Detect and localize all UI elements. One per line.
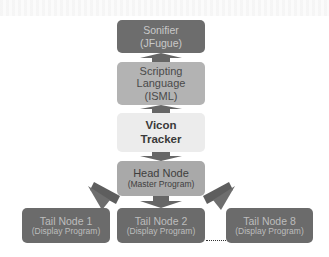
ellipsis-dots <box>206 240 226 241</box>
tail-node-8: Tail Node 8 (Display Program) <box>226 208 313 243</box>
vicon-label-2: Tracker <box>141 133 182 146</box>
tail-node-1-sublabel: (Display Program) <box>32 227 101 237</box>
tail-node-2: Tail Node 2 (Display Program) <box>117 208 205 243</box>
scripting-language-node: Scripting Language (ISML) <box>117 62 205 105</box>
arrow-down-right-icon <box>203 182 235 210</box>
sonifier-node: Sonifier (JFugue) <box>117 20 205 53</box>
head-node: Head Node (Master Program) <box>117 161 205 196</box>
head-sublabel: (Master Program) <box>128 180 195 190</box>
background-ghost-text <box>0 0 329 16</box>
sonifier-label: Sonifier <box>143 24 179 36</box>
vicon-label-1: Vicon <box>145 119 176 132</box>
scripting-label-2: Language <box>137 77 186 90</box>
arrow-down-icon <box>140 196 182 208</box>
tail-node-2-sublabel: (Display Program) <box>127 227 196 237</box>
arrow-down-left-icon <box>88 182 120 210</box>
sonifier-sublabel: (JFugue) <box>140 37 182 49</box>
tail-node-8-sublabel: (Display Program) <box>235 227 304 237</box>
scripting-label-1: Scripting <box>140 65 183 78</box>
tail-node-1-label: Tail Node 1 <box>40 215 93 227</box>
arrow-down-icon <box>140 152 182 161</box>
tail-node-1: Tail Node 1 (Display Program) <box>22 208 110 243</box>
tail-node-8-label: Tail Node 8 <box>243 215 296 227</box>
vicon-tracker-node: Vicon Tracker <box>117 113 205 152</box>
scripting-sublabel: (ISML) <box>145 90 178 103</box>
tail-node-2-label: Tail Node 2 <box>135 215 188 227</box>
